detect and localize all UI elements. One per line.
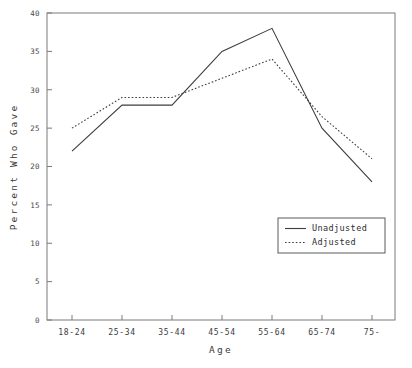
x-tick-label-45-54: 45-54 — [208, 328, 236, 337]
line-chart: 0510152025303540 18-2425-3435-4445-5455-… — [0, 0, 412, 368]
x-tick-label-35-44: 35-44 — [158, 328, 186, 337]
x-tick-label-25-34: 25-34 — [108, 328, 136, 337]
y-tick-label-10: 10 — [30, 239, 40, 248]
y-tick-label-25: 25 — [30, 124, 40, 133]
y-tick-label-35: 35 — [30, 47, 40, 56]
x-axis-title: Age — [209, 344, 233, 355]
y-tick-label-15: 15 — [30, 201, 40, 210]
x-tick-label-18-24: 18-24 — [58, 328, 86, 337]
x-tick-label-75-: 75- — [364, 328, 381, 337]
legend-label-unadjusted: Unadjusted — [312, 223, 367, 233]
y-tick-label-30: 30 — [30, 86, 40, 95]
legend-label-adjusted: Adjusted — [312, 237, 356, 247]
y-tick-label-40: 40 — [30, 9, 40, 18]
x-tick-label-65-74: 65-74 — [308, 328, 336, 337]
y-tick-label-20: 20 — [30, 162, 40, 171]
y-axis-title: Percent Who Gave — [8, 104, 19, 231]
chart-legend: UnadjustedAdjusted — [278, 218, 385, 253]
chart-container: 0510152025303540 18-2425-3435-4445-5455-… — [0, 0, 412, 368]
y-tick-label-0: 0 — [35, 316, 40, 325]
chart-background — [0, 0, 412, 368]
y-tick-label-5: 5 — [35, 277, 40, 286]
x-tick-label-55-64: 55-64 — [258, 328, 286, 337]
